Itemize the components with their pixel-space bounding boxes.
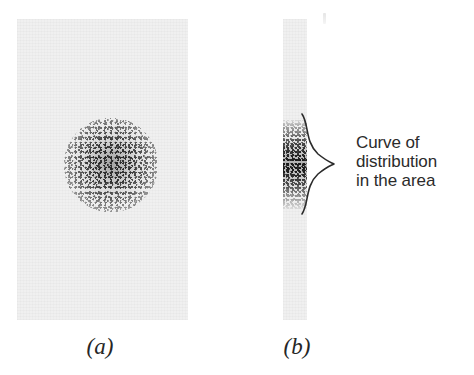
dot-cloud-dense-core <box>64 118 158 212</box>
annotation-line-2: distribution <box>356 152 474 171</box>
annotation-line-1: Curve of <box>356 133 474 152</box>
annotation-text: Curve of distribution in the area <box>356 133 474 190</box>
caption-panel-a: (a) <box>60 334 140 360</box>
bell-curve <box>300 112 344 216</box>
caption-panel-b: (b) <box>257 334 337 360</box>
scan-artifact-speck <box>323 13 326 24</box>
panel-a-area-plan <box>17 19 188 320</box>
annotation-line-3: in the area <box>356 171 474 190</box>
figure-root: Curve of distribution in the area (a) (b… <box>0 0 474 375</box>
dot-cloud-disc <box>64 118 158 212</box>
